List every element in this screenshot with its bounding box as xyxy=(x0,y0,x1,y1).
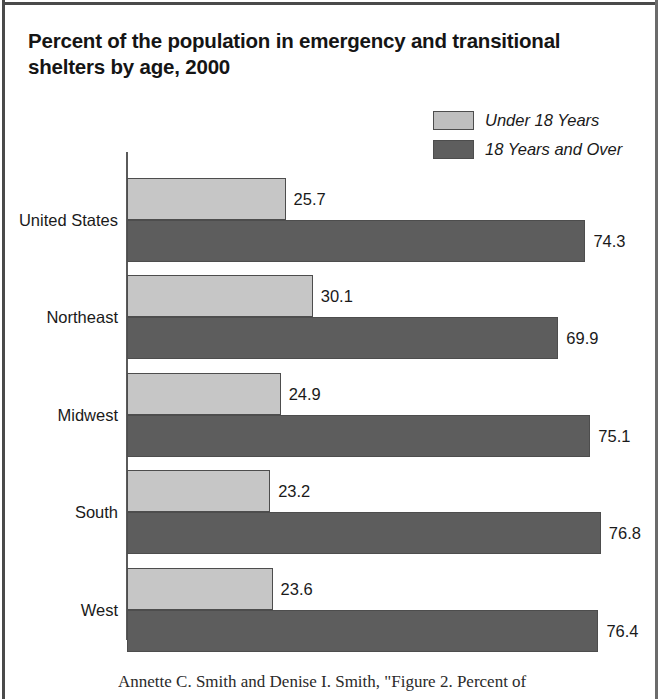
chart-figure: Percent of the population in emergency a… xyxy=(0,0,660,699)
bar-value-under-18: 23.6 xyxy=(281,580,313,598)
bar-value-18-and-over: 69.9 xyxy=(566,329,598,347)
category-label: United States xyxy=(0,211,118,229)
category-label: Midwest xyxy=(0,406,118,424)
bar-value-under-18: 23.2 xyxy=(278,482,310,500)
category-label: South xyxy=(0,503,118,521)
bar-18-and-over xyxy=(127,317,558,359)
bar-value-under-18: 30.1 xyxy=(321,287,353,305)
category-label: Northeast xyxy=(0,308,118,326)
bar-group: 30.169.9 xyxy=(127,275,647,359)
bar-18-and-over xyxy=(127,512,601,554)
source-caption: Annette C. Smith and Denise I. Smith, "F… xyxy=(118,672,648,692)
bar-under-18 xyxy=(127,275,313,317)
category-label: West xyxy=(0,601,118,619)
bar-value-under-18: 25.7 xyxy=(294,190,326,208)
bar-under-18 xyxy=(127,178,286,220)
bar-under-18 xyxy=(127,373,281,415)
plot-area: 25.774.330.169.924.975.123.276.823.676.4… xyxy=(0,0,660,699)
bar-value-18-and-over: 74.3 xyxy=(593,232,625,250)
bar-18-and-over xyxy=(127,415,590,457)
bar-under-18 xyxy=(127,470,270,512)
bar-under-18 xyxy=(127,568,273,610)
bar-value-under-18: 24.9 xyxy=(289,385,321,403)
bar-value-18-and-over: 75.1 xyxy=(598,427,630,445)
bar-group: 24.975.1 xyxy=(127,373,647,457)
bar-18-and-over xyxy=(127,610,598,652)
bar-group: 23.676.4 xyxy=(127,568,647,652)
bar-value-18-and-over: 76.4 xyxy=(606,622,638,640)
bar-group: 23.276.8 xyxy=(127,470,647,554)
bar-value-18-and-over: 76.8 xyxy=(609,524,641,542)
bar-group: 25.774.3 xyxy=(127,178,647,262)
bar-18-and-over xyxy=(127,220,585,262)
